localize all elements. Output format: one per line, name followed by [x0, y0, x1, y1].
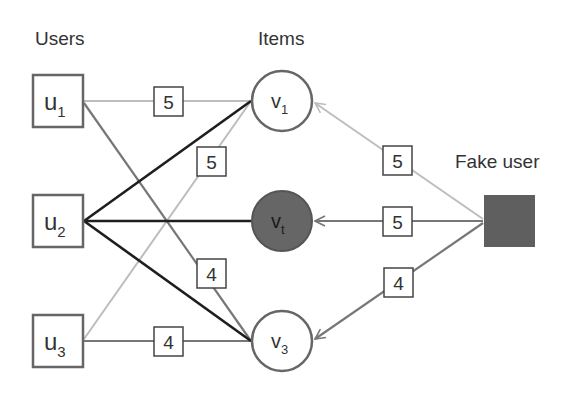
user-node-u1: u1	[33, 75, 83, 127]
users-header: Users	[35, 28, 85, 49]
rating-label-fake-vt: 5	[383, 207, 412, 236]
user-node-u2: u2	[33, 195, 83, 247]
rating-label-u1-v3: 4	[197, 259, 226, 288]
svg-text:4: 4	[206, 264, 217, 285]
svg-text:4: 4	[163, 332, 174, 353]
fake-user-node	[484, 195, 535, 247]
fake-user-header: Fake user	[455, 151, 540, 172]
user-node-u3: u3	[33, 315, 83, 367]
rating-label-fake-v3: 4	[384, 268, 413, 297]
svg-text:5: 5	[163, 92, 174, 113]
rating-label-u3-v3: 4	[154, 327, 183, 356]
rating-label-fake-v1: 5	[383, 146, 412, 175]
user-item-edges	[84, 101, 251, 341]
rating-label-u3-v1: 5	[197, 147, 226, 176]
svg-text:5: 5	[392, 151, 403, 172]
items-header: Items	[258, 28, 304, 49]
item-node-v3: v3	[252, 311, 312, 371]
item-node-vt-target: vt	[252, 191, 312, 251]
rating-label-u1-v1: 5	[154, 87, 183, 116]
recommender-attack-diagram: Users Items Fake user 5 5 4 4 5 5	[0, 0, 581, 393]
svg-text:4: 4	[393, 273, 404, 294]
svg-text:5: 5	[392, 212, 403, 233]
svg-text:5: 5	[206, 152, 217, 173]
item-node-v1: v1	[252, 71, 312, 131]
